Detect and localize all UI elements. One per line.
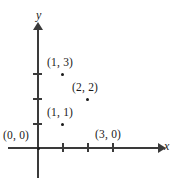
data-point-1-3: [61, 73, 64, 76]
coordinate-plane-figure: (0, 0) (1, 1) (2, 2) (1, 3) (3, 0) x y: [0, 0, 174, 184]
data-point-label-1-1: (1, 1): [47, 106, 73, 118]
y-axis-label: y: [36, 8, 41, 23]
y-tick-1: [33, 123, 42, 125]
x-axis-label: x: [164, 139, 169, 154]
x-tick-3: [112, 143, 114, 152]
data-point-0-0: [37, 147, 40, 150]
y-tick-2: [33, 98, 42, 100]
x-axis: [8, 147, 160, 149]
y-axis: [37, 28, 39, 178]
data-point-label-1-3: (1, 3): [47, 56, 73, 68]
data-point-label-2-2: (2, 2): [72, 81, 98, 93]
x-tick-2: [87, 143, 89, 152]
x-tick-1: [62, 143, 64, 152]
data-point-label-3-0: (3, 0): [95, 128, 121, 140]
data-point-label-0-0: (0, 0): [3, 129, 29, 141]
y-tick-3: [33, 73, 42, 75]
data-point-2-2: [86, 98, 89, 101]
y-axis-arrow-icon: [33, 22, 43, 30]
data-point-1-1: [61, 123, 64, 126]
